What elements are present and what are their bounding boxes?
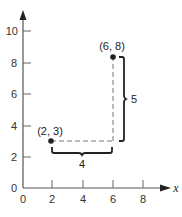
x-tick-label-0: 0 — [20, 193, 26, 205]
x-tick-label-6: 6 — [110, 193, 116, 205]
x-tick-label-8: 8 — [140, 193, 146, 205]
y-axis-arrow-icon — [20, 10, 27, 20]
coordinate-plot: 0 2 4 6 8 10 0 2 4 6 8 x 4 5 (2, 3) (6, … — [0, 0, 182, 217]
point-a — [48, 138, 54, 144]
y-ticks — [23, 31, 31, 157]
run-label: 4 — [79, 158, 85, 170]
rise-label: 5 — [131, 93, 137, 105]
y-tick-label-2: 2 — [11, 151, 17, 163]
point-b-label: (6, 8) — [99, 40, 125, 52]
x-axis-label: x — [172, 181, 179, 195]
point-a-label: (2, 3) — [37, 125, 63, 137]
y-tick-label-6: 6 — [11, 88, 17, 100]
y-tick-label-4: 4 — [11, 120, 17, 132]
x-axis-arrow-icon — [160, 185, 171, 192]
point-b — [110, 54, 116, 60]
x-tick-label-2: 2 — [49, 193, 55, 205]
run-brace — [52, 147, 112, 155]
y-tick-label-8: 8 — [11, 57, 17, 69]
y-tick-label-0: 0 — [11, 182, 17, 194]
x-tick-label-4: 4 — [80, 193, 86, 205]
x-ticks — [52, 180, 143, 188]
rise-brace — [119, 57, 126, 141]
y-tick-label-10: 10 — [6, 25, 18, 37]
